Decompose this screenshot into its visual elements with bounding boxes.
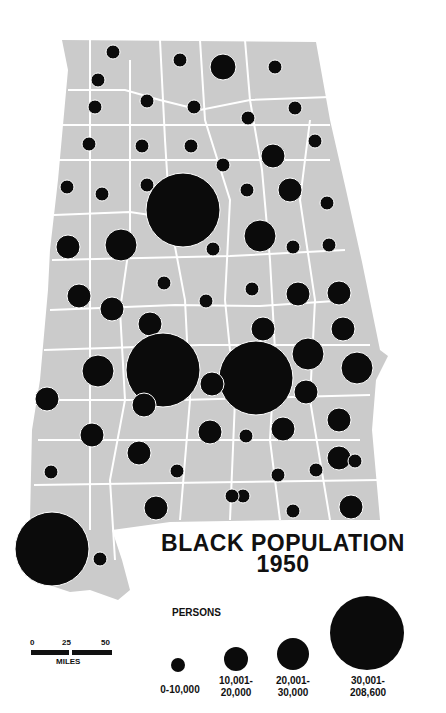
county-population-circle: [15, 512, 89, 586]
county-population-circle: [286, 504, 300, 518]
scale-bar: 0 25 50 MILES: [30, 638, 114, 678]
county-population-circle: [82, 137, 96, 151]
county-population-circle: [286, 240, 300, 254]
county-population-circle: [140, 94, 154, 108]
county-population-circle: [35, 387, 59, 411]
county-population-circle: [308, 134, 322, 148]
county-population-circle: [127, 441, 151, 465]
county-population-circle: [157, 276, 171, 290]
county-population-circle: [327, 281, 351, 305]
county-population-circle: [105, 229, 137, 261]
legend-label-1: 0-10,000: [150, 684, 210, 696]
county-population-circle: [82, 355, 114, 387]
county-population-circle: [173, 53, 187, 67]
county-population-circle: [271, 417, 295, 441]
county-population-circle: [244, 220, 276, 252]
county-population-circle: [286, 282, 310, 306]
county-population-circle: [341, 352, 373, 384]
county-population-circle: [135, 139, 149, 153]
county-population-circle: [91, 73, 105, 87]
county-population-circle: [292, 338, 324, 370]
county-population-circle: [278, 178, 302, 202]
legend-label-4: 30,001- 208,600: [338, 675, 398, 699]
county-population-circle: [93, 552, 107, 566]
county-population-circle: [100, 297, 124, 321]
county-population-circle: [88, 100, 102, 114]
county-population-circle: [184, 139, 198, 153]
county-population-circle: [327, 408, 351, 432]
county-population-circle: [198, 420, 222, 444]
county-population-circle: [271, 468, 285, 482]
county-population-circle: [327, 446, 351, 470]
county-population-circle: [56, 235, 80, 259]
county-population-circle: [309, 463, 323, 477]
county-population-circle: [251, 317, 275, 341]
county-population-circle: [199, 294, 213, 308]
county-map: [0, 0, 446, 713]
county-population-circle: [322, 238, 336, 252]
county-population-circle: [170, 464, 184, 478]
scale-segment-2: [72, 650, 112, 655]
county-population-circle: [95, 187, 109, 201]
county-population-circle: [240, 183, 254, 197]
county-population-circle: [288, 101, 302, 115]
legend-circle: [330, 596, 404, 670]
county-population-circle: [67, 284, 91, 308]
scale-segment-1: [31, 650, 69, 655]
county-population-circle: [132, 393, 156, 417]
county-population-circle: [268, 60, 282, 74]
county-population-circle: [216, 158, 230, 172]
county-population-circle: [245, 282, 259, 296]
county-population-circle: [80, 423, 104, 447]
legend-circle: [224, 647, 248, 671]
legend-circle: [171, 658, 185, 672]
scale-tick-25: 25: [62, 638, 71, 647]
county-population-circle: [219, 341, 293, 415]
county-population-circle: [146, 173, 220, 247]
county-population-circle: [187, 100, 201, 114]
county-population-circle: [294, 380, 318, 404]
scale-tick-50: 50: [101, 638, 110, 647]
county-population-circle: [206, 242, 220, 256]
county-population-circle: [241, 111, 255, 125]
county-population-circle: [200, 372, 224, 396]
legend-heading: PERSONS: [172, 607, 221, 618]
scale-unit: MILES: [56, 657, 80, 666]
county-population-circle: [210, 54, 236, 80]
county-population-circle: [339, 495, 363, 519]
county-population-circle: [138, 312, 162, 336]
county-population-circle: [348, 454, 362, 468]
title-line-2: 1950: [138, 554, 428, 575]
scale-tick-0: 0: [30, 638, 34, 647]
legend-label-3: 20,001- 30,000: [266, 675, 320, 699]
county-population-circle: [239, 429, 253, 443]
county-population-circle: [331, 317, 355, 341]
map-title: BLACK POPULATION 1950: [138, 533, 428, 575]
county-population-circle: [106, 45, 120, 59]
county-population-circle: [44, 465, 58, 479]
legend-label-2: 10,001- 20,000: [210, 675, 262, 699]
county-population-circle: [320, 196, 334, 210]
county-population-circle: [144, 496, 168, 520]
legend-circle: [277, 638, 309, 670]
county-population-circle: [261, 144, 285, 168]
county-population-circle: [60, 180, 74, 194]
county-population-circle: [225, 489, 239, 503]
